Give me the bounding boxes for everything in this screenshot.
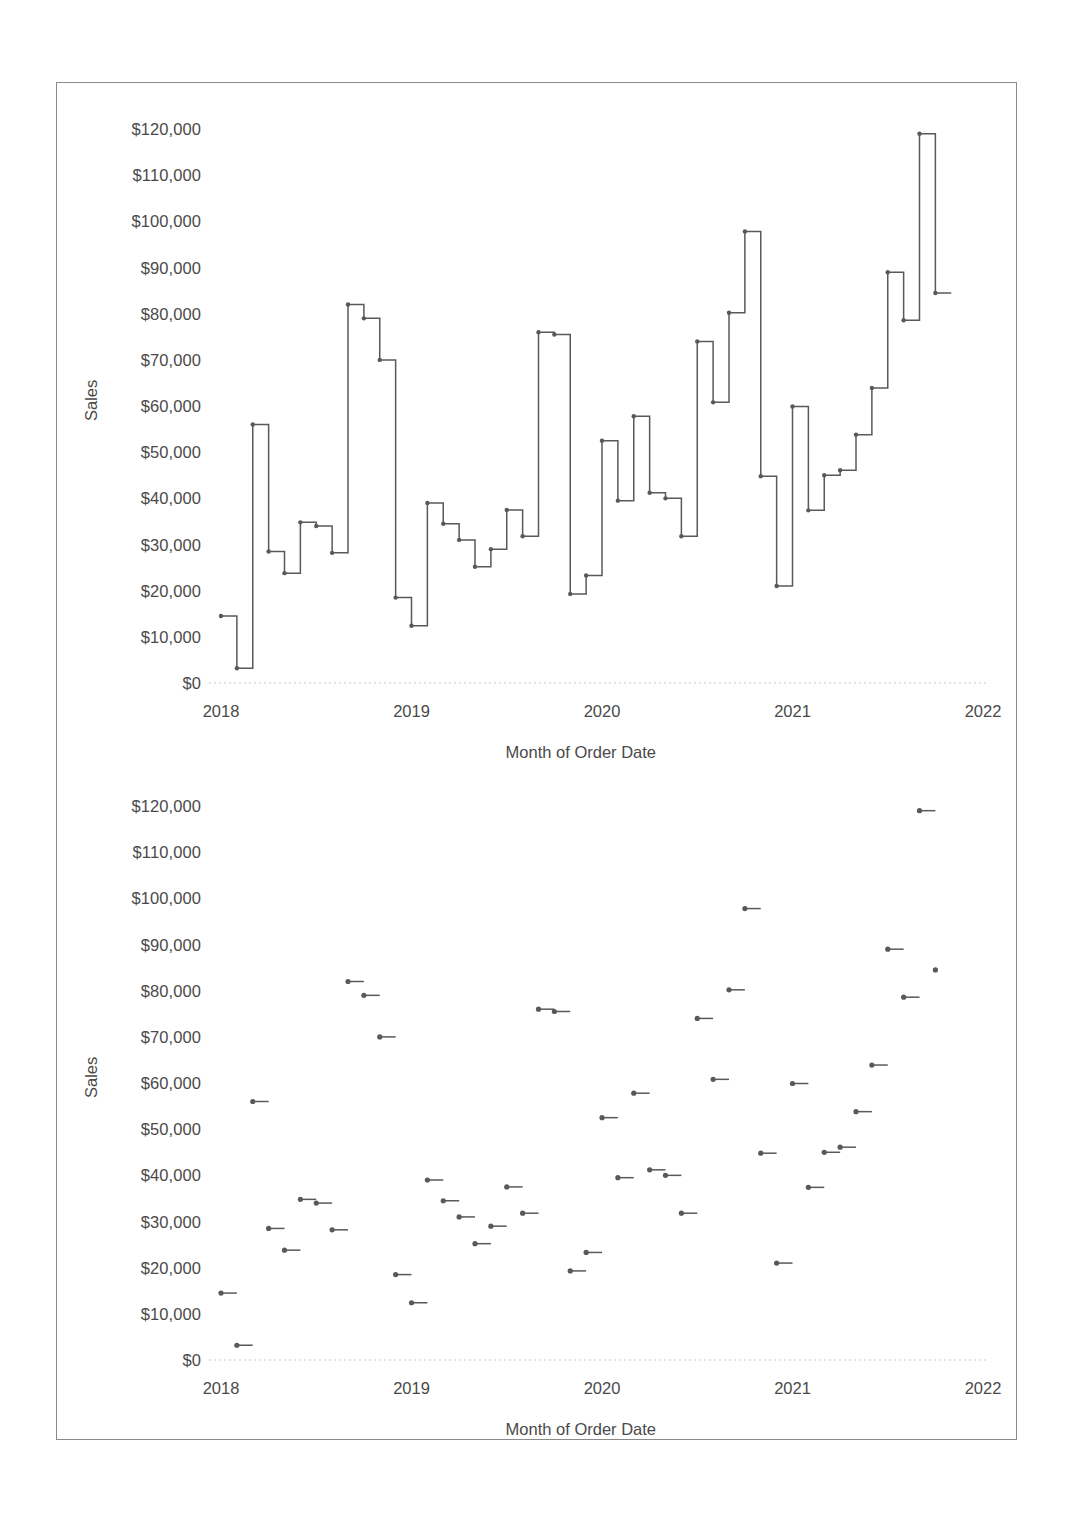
data-point-marker bbox=[409, 1300, 414, 1305]
y-axis-tick-label: $80,000 bbox=[109, 306, 201, 323]
data-point-marker bbox=[759, 474, 763, 478]
data-point-marker bbox=[425, 1177, 430, 1182]
x-axis-tick-label: 2022 bbox=[943, 1380, 1023, 1397]
data-point-marker bbox=[901, 318, 905, 322]
sales-step-line bbox=[221, 134, 951, 669]
y-axis-tick-label: $30,000 bbox=[109, 537, 201, 554]
data-point-marker bbox=[504, 1184, 509, 1189]
y-axis-tick-label: $120,000 bbox=[109, 798, 201, 815]
data-point-marker bbox=[743, 229, 747, 233]
data-point-marker bbox=[282, 1248, 287, 1253]
data-point-marker bbox=[282, 571, 286, 575]
data-point-marker bbox=[441, 522, 445, 526]
data-point-marker bbox=[361, 993, 366, 998]
data-point-marker bbox=[266, 1226, 271, 1231]
y-axis-tick-label: $80,000 bbox=[109, 983, 201, 1000]
data-point-marker bbox=[869, 1062, 874, 1067]
data-point-marker bbox=[425, 501, 429, 505]
data-point-marker bbox=[377, 1034, 382, 1039]
data-point-marker bbox=[663, 496, 667, 500]
y-axis-tick-label: $40,000 bbox=[109, 1167, 201, 1184]
data-point-marker bbox=[472, 1241, 477, 1246]
data-point-marker bbox=[727, 311, 731, 315]
data-point-marker bbox=[901, 995, 906, 1000]
data-point-marker bbox=[505, 508, 509, 512]
y-axis-tick-label: $30,000 bbox=[109, 1214, 201, 1231]
data-point-marker bbox=[758, 1151, 763, 1156]
data-point-marker bbox=[806, 1185, 811, 1190]
data-point-marker bbox=[774, 584, 778, 588]
data-point-marker bbox=[615, 1175, 620, 1180]
x-axis-tick-label: 2019 bbox=[372, 1380, 452, 1397]
data-point-marker bbox=[632, 414, 636, 418]
data-point-marker bbox=[806, 508, 810, 512]
data-point-marker bbox=[536, 330, 540, 334]
x-axis-title-top: Month of Order Date bbox=[381, 744, 781, 761]
y-axis-tick-label: $20,000 bbox=[109, 1260, 201, 1277]
y-axis-tick-label: $50,000 bbox=[109, 444, 201, 461]
y-axis-tick-label: $60,000 bbox=[109, 1075, 201, 1092]
data-point-marker bbox=[489, 547, 493, 551]
step-marker-chart-plot bbox=[57, 773, 1018, 1441]
data-point-marker bbox=[345, 979, 350, 984]
data-point-marker bbox=[854, 432, 858, 436]
data-point-marker bbox=[393, 595, 397, 599]
y-axis-tick-label: $0 bbox=[109, 675, 201, 692]
data-point-marker bbox=[218, 1290, 223, 1295]
x-axis-tick-label: 2018 bbox=[181, 1380, 261, 1397]
data-point-marker bbox=[520, 534, 524, 538]
data-point-marker bbox=[552, 1009, 557, 1014]
data-point-marker bbox=[298, 520, 302, 524]
x-axis-tick-label: 2019 bbox=[372, 703, 452, 720]
x-axis-tick-label: 2022 bbox=[943, 703, 1023, 720]
data-point-marker bbox=[695, 339, 699, 343]
data-point-marker bbox=[441, 1198, 446, 1203]
data-point-marker bbox=[933, 291, 937, 295]
x-axis-tick-label: 2021 bbox=[753, 1380, 833, 1397]
data-point-marker bbox=[726, 987, 731, 992]
data-point-marker bbox=[568, 592, 572, 596]
data-point-marker bbox=[647, 1167, 652, 1172]
data-point-marker bbox=[616, 498, 620, 502]
x-axis-title-bottom: Month of Order Date bbox=[381, 1421, 781, 1438]
step-line-chart-panel: $120,000$110,000$100,000$90,000$80,000$7… bbox=[57, 83, 1018, 773]
data-point-marker bbox=[711, 1077, 716, 1082]
step-marker-chart-panel: $120,000$110,000$100,000$90,000$80,000$7… bbox=[57, 773, 1018, 1441]
y-axis-tick-label: $110,000 bbox=[109, 844, 201, 861]
data-point-marker bbox=[330, 1227, 335, 1232]
data-point-marker bbox=[584, 573, 588, 577]
data-point-marker bbox=[457, 1214, 462, 1219]
data-point-marker bbox=[473, 564, 477, 568]
data-point-marker bbox=[838, 1145, 843, 1150]
x-axis-tick-label: 2020 bbox=[562, 1380, 642, 1397]
data-point-marker bbox=[679, 534, 683, 538]
y-axis-tick-label: $110,000 bbox=[109, 167, 201, 184]
data-point-marker bbox=[219, 614, 223, 618]
data-point-marker bbox=[314, 1200, 319, 1205]
data-point-marker bbox=[933, 967, 938, 972]
y-axis-tick-label: $10,000 bbox=[109, 629, 201, 646]
data-point-marker bbox=[917, 808, 922, 813]
data-point-marker bbox=[599, 1115, 604, 1120]
data-point-marker bbox=[838, 468, 842, 472]
y-axis-tick-label: $100,000 bbox=[109, 890, 201, 907]
data-point-marker bbox=[742, 906, 747, 911]
y-axis-tick-label: $70,000 bbox=[109, 1029, 201, 1046]
x-axis-tick-label: 2018 bbox=[181, 703, 261, 720]
data-point-marker bbox=[647, 491, 651, 495]
y-axis-tick-label: $60,000 bbox=[109, 398, 201, 415]
x-axis-tick-label: 2021 bbox=[753, 703, 833, 720]
data-point-marker bbox=[886, 270, 890, 274]
y-axis-tick-label: $0 bbox=[109, 1352, 201, 1369]
x-axis-tick-label: 2020 bbox=[562, 703, 642, 720]
data-point-marker bbox=[679, 1211, 684, 1216]
data-point-marker bbox=[250, 1099, 255, 1104]
data-point-marker bbox=[536, 1007, 541, 1012]
data-point-marker bbox=[266, 549, 270, 553]
data-point-marker bbox=[870, 386, 874, 390]
data-point-marker bbox=[631, 1091, 636, 1096]
y-axis-title-top: Sales bbox=[83, 379, 100, 420]
data-point-marker bbox=[330, 551, 334, 555]
data-point-marker bbox=[790, 404, 794, 408]
y-axis-tick-label: $20,000 bbox=[109, 583, 201, 600]
